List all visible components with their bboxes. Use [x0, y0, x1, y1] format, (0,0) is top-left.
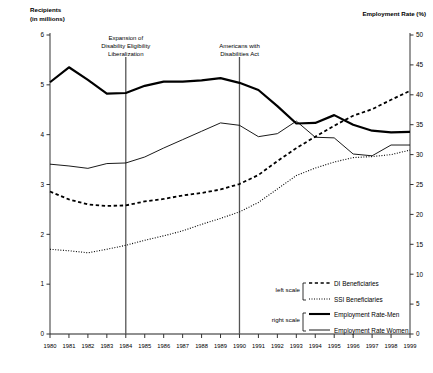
right-tick-label: 50	[416, 31, 424, 38]
series-line-ssi-beneficiaries	[50, 150, 410, 253]
right-tick-label: 5	[416, 300, 420, 307]
data-series-layer	[50, 67, 410, 252]
x-tick-label: 1986	[157, 343, 170, 349]
left-tick-label: 6	[40, 31, 44, 38]
x-tick-label: 1985	[138, 343, 151, 349]
x-tick-label: 1990	[233, 343, 246, 349]
event-marker-lines	[126, 57, 240, 334]
left-tick-label: 0	[40, 330, 44, 337]
left-tick-label: 1	[40, 280, 44, 287]
x-tick-label: 1991	[252, 343, 265, 349]
legend-group-right-scale: right scale	[272, 316, 301, 323]
x-tick-label: 1982	[81, 343, 94, 349]
chart-legend: left scale right scale DI Beneficiaries …	[272, 280, 409, 335]
x-tick-label: 1994	[309, 343, 323, 349]
left-tick-label: 3	[40, 181, 44, 188]
left-tick-label: 2	[40, 231, 44, 238]
right-tick-label: 10	[416, 271, 424, 278]
x-tick-label: 1993	[290, 343, 303, 349]
legend-bracket-right-scale	[303, 313, 306, 331]
right-tick-label: 15	[416, 241, 424, 248]
right-tick-label: 40	[416, 91, 424, 98]
right-tick-label: 35	[416, 121, 424, 128]
legend-label-di: DI Beneficiaries	[334, 280, 379, 287]
left-tick-label: 5	[40, 81, 44, 88]
x-tick-label: 1987	[176, 343, 189, 349]
x-tick-label: 1996	[347, 343, 360, 349]
right-tick-label: 0	[416, 330, 420, 337]
annotation-2-line1: Americans with	[219, 43, 260, 49]
legend-label-women: Employment Rate Women	[334, 327, 409, 335]
series-line-employment-rate-women	[50, 121, 410, 168]
x-tick-label: 1981	[62, 343, 75, 349]
x-tick-label: 1984	[119, 343, 133, 349]
line-chart: Recipients (in millions) Employment Rate…	[0, 0, 433, 373]
x-tick-label: 1995	[328, 343, 341, 349]
right-axis-ticks: 05101520253035404550	[410, 31, 424, 337]
legend-group-left-scale: left scale	[276, 286, 301, 293]
annotation-layer: Expansion of Disability Eligibility Libe…	[101, 35, 260, 57]
annotation-1-line3: Liberalization	[108, 51, 143, 57]
chart-container: Recipients (in millions) Employment Rate…	[0, 0, 433, 373]
right-tick-label: 45	[416, 61, 424, 68]
x-axis-ticks: 1980198119821983198419851986198719881989…	[44, 334, 417, 349]
axis-lines	[50, 33, 410, 334]
left-axis-title-line1: Recipients	[30, 6, 62, 13]
x-tick-label: 1997	[366, 343, 379, 349]
axis-titles: Recipients (in millions) Employment Rate…	[30, 6, 426, 22]
x-tick-label: 1988	[195, 343, 208, 349]
x-tick-label: 1983	[100, 343, 113, 349]
right-tick-label: 20	[416, 211, 424, 218]
legend-label-men: Employment Rate-Men	[334, 311, 400, 319]
right-axis-title: Employment Rate (%)	[362, 10, 426, 17]
annotation-2-line2: Disabilities Act	[220, 51, 259, 57]
legend-label-ssi: SSI Beneficiaries	[334, 296, 383, 303]
x-tick-label: 1989	[214, 343, 227, 349]
right-tick-label: 30	[416, 151, 424, 158]
legend-bracket-left-scale	[303, 283, 306, 300]
series-line-employment-rate-men	[50, 67, 410, 132]
annotation-1-line2: Disability Eligibility	[101, 43, 150, 49]
left-axis-title-line2: (in millions)	[30, 15, 65, 22]
x-tick-label: 1980	[44, 343, 57, 349]
series-line-di-beneficiaries	[50, 91, 410, 206]
x-tick-label: 1999	[404, 343, 417, 349]
x-tick-label: 1992	[271, 343, 284, 349]
annotation-1-line1: Expansion of	[108, 35, 143, 41]
x-tick-label: 1998	[385, 343, 398, 349]
left-tick-label: 4	[40, 131, 44, 138]
left-axis-ticks: 0123456	[40, 31, 50, 337]
right-tick-label: 25	[416, 181, 424, 188]
